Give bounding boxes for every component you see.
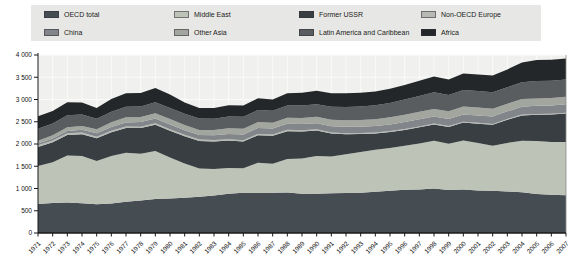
x-tick-label: 1987 [261,239,276,254]
x-tick-label: 1979 [144,239,159,254]
x-tick-label: 1972 [41,239,56,254]
x-tick-label: 1990 [305,239,320,254]
x-tick-label: 2004 [511,239,526,254]
x-tick-label: 1997 [408,239,423,254]
x-tick-label: 2000 [452,239,467,254]
x-tick-label: 1983 [203,239,218,254]
y-tick-label: 500 [21,207,32,214]
y-tick-label: 4 000 [16,51,33,58]
x-tick-label: 1975 [85,239,100,254]
x-tick-label: 1974 [71,239,86,254]
y-tick-label: 3 000 [16,96,33,103]
x-tick-label: 2001 [467,239,482,254]
x-tick-label: 1978 [129,239,144,254]
y-tick-label: 0 [28,229,32,236]
x-tick-label: 1976 [100,239,115,254]
x-tick-label: 1985 [232,239,247,254]
x-tick-label: 2006 [540,239,555,254]
y-tick-label: 2 000 [16,140,33,147]
figure: OECD totalMiddle EastFormer USSRNon-OECD… [0,0,571,259]
x-tick-label: 1996 [393,239,408,254]
y-tick-label: 2 500 [16,118,33,125]
x-tick-label: 1981 [173,239,188,254]
y-tick-label: 1 500 [16,163,33,170]
x-tick-label: 1989 [291,239,306,254]
x-tick-label: 1984 [217,239,232,254]
x-tick-label: 1993 [349,239,364,254]
x-tick-label: 2002 [481,239,496,254]
x-tick-label: 1998 [423,239,438,254]
x-tick-label: 1977 [115,239,130,254]
y-tick-label: 3 500 [16,74,33,81]
x-tick-label: 1971 [27,239,42,254]
x-tick-label: 1988 [276,239,291,254]
x-tick-label: 2007 [555,239,570,254]
x-tick-label: 2005 [525,239,540,254]
x-tick-label: 1980 [159,239,174,254]
x-tick-label: 1973 [56,239,71,254]
x-tick-label: 1999 [437,239,452,254]
x-tick-label: 1982 [188,239,203,254]
y-tick-label: 1 000 [16,185,33,192]
x-tick-label: 1986 [247,239,262,254]
x-tick-label: 2003 [496,239,511,254]
x-tick-label: 1995 [379,239,394,254]
x-tick-label: 1991 [320,239,335,254]
x-tick-label: 1994 [364,239,379,254]
stacked-area-chart: 05001 0001 5002 0002 5003 0003 5004 0001… [0,0,571,259]
x-tick-label: 1992 [335,239,350,254]
